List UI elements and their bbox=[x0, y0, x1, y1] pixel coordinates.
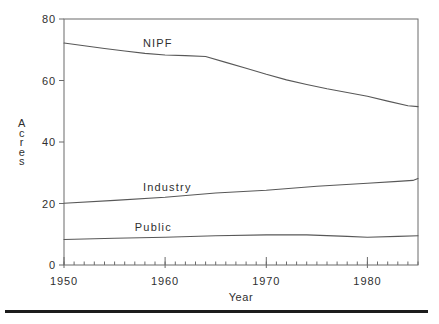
y-tick-label: 40 bbox=[42, 136, 56, 148]
x-axis-title: Year bbox=[229, 291, 254, 303]
series-label-public: Public bbox=[135, 221, 172, 233]
x-tick-label: 1950 bbox=[50, 275, 78, 287]
series-label-nipf: NIPF bbox=[143, 37, 173, 49]
series-label-industry: Industry bbox=[143, 181, 192, 193]
x-tick-label: 1980 bbox=[353, 275, 381, 287]
y-tick-label: 20 bbox=[42, 198, 56, 210]
y-tick-label: 60 bbox=[42, 75, 56, 87]
y-tick-label: 80 bbox=[42, 13, 56, 25]
y-axis-title-char: s bbox=[19, 155, 25, 167]
series-line-public bbox=[64, 235, 418, 240]
y-tick-label: 0 bbox=[49, 259, 56, 271]
acres-by-ownership-line-chart: 1950196019701980020406080NIPFIndustryPub… bbox=[0, 0, 439, 324]
plot-border bbox=[64, 19, 418, 265]
bottom-rule bbox=[5, 310, 428, 313]
line-chart-figure: 1950196019701980020406080NIPFIndustryPub… bbox=[0, 0, 439, 324]
x-tick-label: 1960 bbox=[151, 275, 179, 287]
series-line-nipf bbox=[64, 43, 418, 107]
series-line-industry bbox=[64, 179, 418, 204]
x-tick-label: 1970 bbox=[252, 275, 280, 287]
